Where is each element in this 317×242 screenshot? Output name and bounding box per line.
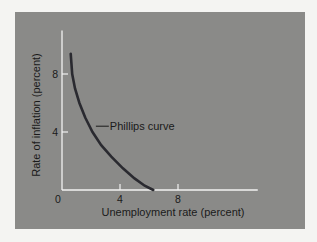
x-tick-label: 8 (175, 193, 181, 205)
y-axis-label: Rate of inflation (percent) (30, 53, 42, 177)
x-tick-label: 4 (117, 193, 123, 205)
x-axis-label: Unemployment rate (percent) (101, 206, 244, 218)
origin-label: 0 (55, 193, 61, 205)
annotation-label: Phillips curve (110, 120, 175, 132)
phillips-curve-chart: 4848 Phillips curve 0 Unemployment rate … (0, 0, 317, 242)
y-tick-label: 8 (52, 68, 58, 80)
y-tick-label: 4 (52, 126, 58, 138)
